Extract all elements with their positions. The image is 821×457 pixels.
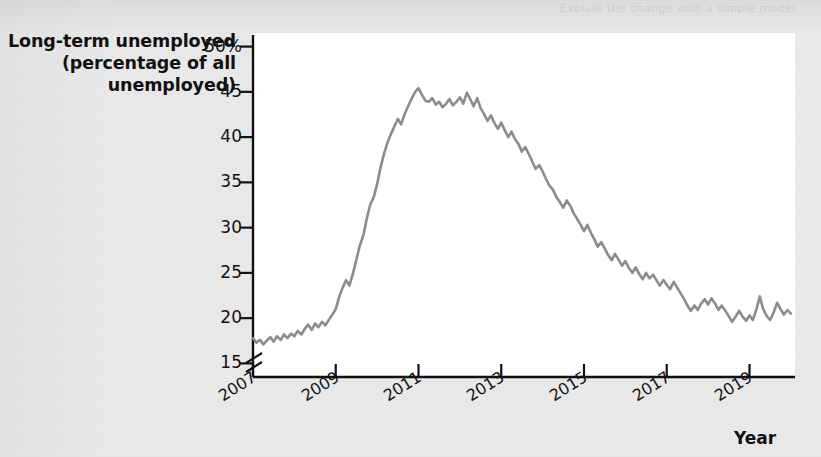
axes-group [246,35,795,377]
chart-canvas [0,0,821,457]
data-series-line [253,88,791,344]
x-axis-tick-marks [253,364,749,377]
y-axis-tick-marks [240,47,253,364]
line-chart-figure: Long-term unemployed (percentage of all … [0,0,821,457]
